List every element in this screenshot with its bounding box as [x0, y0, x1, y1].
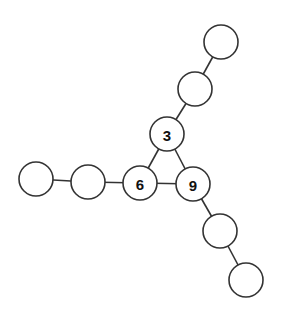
graph-node-3: 3	[150, 117, 184, 151]
graph-node-9: 9	[176, 167, 210, 201]
node-label: 9	[189, 177, 197, 194]
graph-node-empty	[178, 72, 212, 106]
graph-node-empty	[71, 165, 105, 199]
graph-node-6: 6	[123, 166, 157, 200]
graph-diagram: 369	[0, 0, 281, 319]
node-circle	[19, 162, 53, 196]
node-circle	[204, 25, 238, 59]
node-circle	[203, 214, 237, 248]
node-circle	[178, 72, 212, 106]
graph-node-empty	[203, 214, 237, 248]
node-label: 6	[136, 176, 144, 193]
node-circle	[71, 165, 105, 199]
graph-node-empty	[204, 25, 238, 59]
node-label: 3	[163, 127, 171, 144]
nodes-layer: 369	[19, 25, 263, 297]
graph-node-empty	[229, 263, 263, 297]
graph-node-empty	[19, 162, 53, 196]
node-circle	[229, 263, 263, 297]
